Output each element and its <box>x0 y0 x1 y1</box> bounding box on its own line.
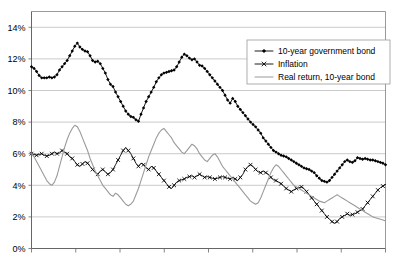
legend-item-label: Inflation <box>278 59 308 69</box>
y-axis-tick-label: 0% <box>12 244 25 254</box>
y-axis-tick-label: 6% <box>12 149 25 159</box>
y-axis-tick-label: 12% <box>7 54 25 64</box>
legend-item-label: 10-year government bond <box>278 46 376 56</box>
chart-legend: 10-year government bondInflationReal ret… <box>247 40 390 84</box>
chart-container: 0%2%4%6%8%10%12%14% 10-year government b… <box>0 0 397 267</box>
y-axis-tick-label: 2% <box>12 212 25 222</box>
line-chart: 0%2%4%6%8%10%12%14% 10-year government b… <box>0 0 397 267</box>
y-axis-tick-label: 8% <box>12 117 25 127</box>
y-axis-tick-label: 14% <box>7 23 25 33</box>
y-axis-tick-labels: 0%2%4%6%8%10%12%14% <box>7 23 25 254</box>
legend-item-label: Real return, 10-year bond <box>278 72 375 82</box>
y-axis-tick-label: 10% <box>7 86 25 96</box>
series-3 <box>32 125 386 221</box>
y-axis-tick-label: 4% <box>12 181 25 191</box>
x-axis-ticks <box>32 249 386 253</box>
